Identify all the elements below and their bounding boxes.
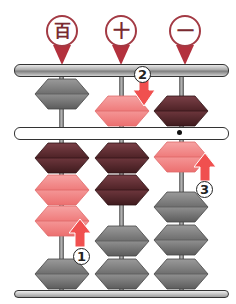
ones-lower-bead-3[interactable] — [153, 224, 209, 256]
ones-upper-bead[interactable] — [153, 95, 209, 127]
unit-dot — [177, 130, 182, 135]
tens-column-marker: 十 — [105, 15, 137, 65]
step-3-badge: 3 — [196, 181, 213, 198]
pin-icon — [112, 45, 130, 65]
tens-lower-bead-4[interactable] — [94, 258, 150, 290]
tens-lower-bead-1[interactable] — [94, 142, 150, 174]
beam — [14, 127, 229, 140]
hundreds-upper-bead[interactable] — [34, 78, 90, 110]
step-1-badge: 1 — [73, 248, 90, 265]
top-frame — [14, 64, 229, 77]
hundreds-label: 百 — [46, 15, 78, 47]
hundreds-column-marker: 百 — [46, 15, 78, 65]
hundreds-lower-bead-2[interactable] — [34, 174, 90, 206]
pin-icon — [53, 45, 71, 65]
ones-lower-bead-4[interactable] — [153, 258, 209, 290]
step-2-badge: 2 — [134, 66, 151, 83]
ones-label: 一 — [169, 15, 201, 47]
ones-column-marker: 一 — [169, 15, 201, 65]
arrow-up-icon — [69, 219, 91, 247]
arrow-up-icon — [194, 153, 216, 181]
hundreds-lower-bead-1[interactable] — [34, 142, 90, 174]
pin-icon — [176, 45, 194, 65]
tens-lower-bead-2[interactable] — [94, 174, 150, 206]
tens-label: 十 — [105, 15, 137, 47]
tens-lower-bead-3[interactable] — [94, 225, 150, 257]
bottom-frame — [14, 290, 229, 298]
